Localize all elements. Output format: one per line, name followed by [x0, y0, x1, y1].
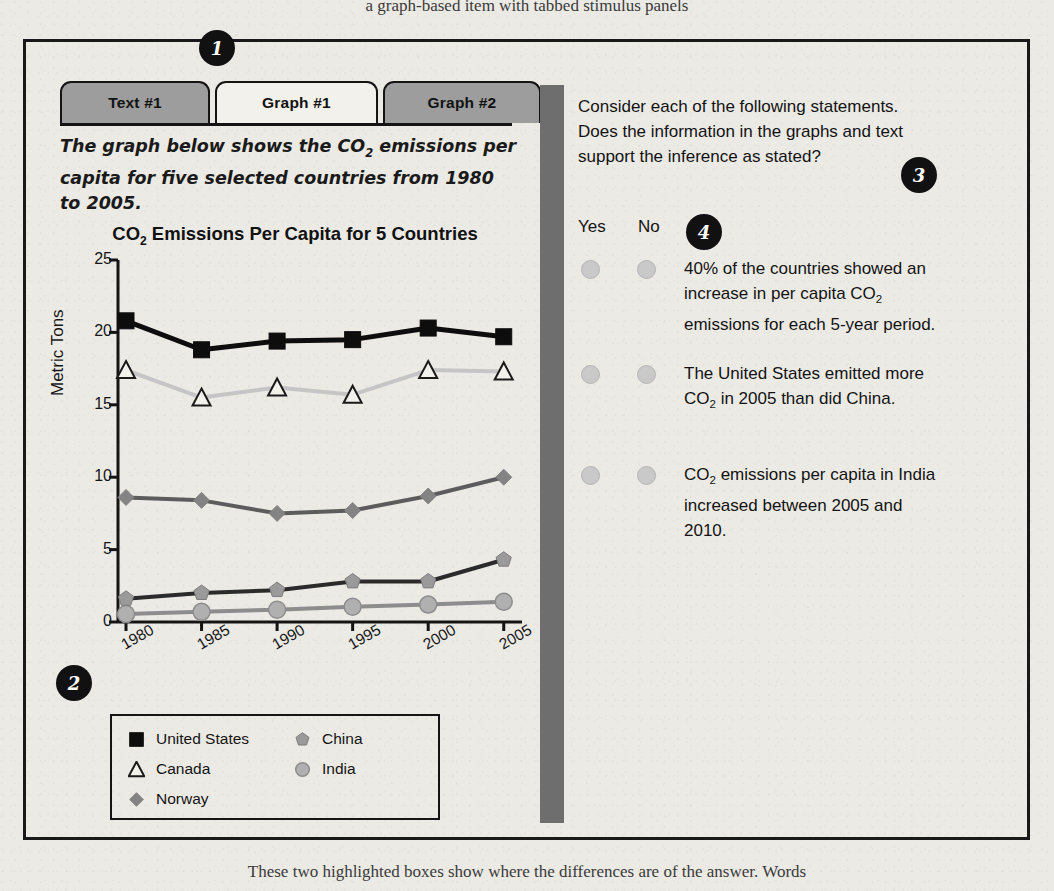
prompt-line2: capita for five selected countries from …: [60, 168, 494, 213]
statement-3-line2: increased between 2005 and: [684, 496, 902, 515]
filled-pentagon-icon: [294, 731, 311, 748]
radio-no-statement-3[interactable]: [637, 466, 656, 485]
series-india: [118, 593, 513, 622]
column-header-no: No: [638, 217, 660, 237]
y-tick-10: 10: [78, 467, 112, 485]
statement-3-text: CO2 emissions per capita in India increa…: [684, 462, 1004, 543]
tab-graph-1[interactable]: Graph #1: [215, 81, 378, 123]
y-tick-0: 0: [78, 612, 112, 630]
y-tick-5: 5: [78, 540, 112, 558]
legend-item-canada: Canada: [128, 760, 210, 778]
filled-diamond-icon: [128, 791, 145, 808]
stimulus-panel: Text #1 Graph #1 Graph #2 The graph belo…: [26, 42, 540, 837]
callout-2: 2: [56, 665, 92, 701]
y-axis-label: Metric Tons: [48, 309, 68, 396]
statement-2-line2-b: in 2005 than did China.: [716, 389, 896, 408]
legend-label: Norway: [156, 790, 209, 808]
legend-label: India: [322, 760, 356, 778]
prompt-line1-b: emissions per: [373, 136, 516, 156]
statement-3-line1-b: emissions per capita in India: [716, 465, 935, 484]
radio-no-statement-1[interactable]: [637, 260, 656, 279]
y-axis-ticks: 0510152025: [78, 248, 112, 628]
question-line3: support the inference as stated?: [578, 147, 821, 166]
legend-item-china: China: [294, 730, 363, 748]
statement-1-line2: increase in per capita CO: [684, 284, 876, 303]
statement-3-line1-a: CO: [684, 465, 710, 484]
legend-item-united-states: United States: [128, 730, 249, 748]
question-stem: Consider each of the following statement…: [578, 94, 998, 169]
figure-frame: Text #1 Graph #1 Graph #2 The graph belo…: [23, 39, 1030, 840]
legend-label: United States: [156, 730, 249, 748]
series-united-states: [118, 313, 512, 358]
radio-yes-statement-2[interactable]: [581, 365, 600, 384]
prompt-subscript: 2: [365, 146, 373, 160]
tab-underline: [60, 123, 512, 126]
filled-square-icon: [128, 731, 145, 748]
series-norway: [118, 469, 512, 521]
radio-yes-statement-3[interactable]: [581, 466, 600, 485]
statement-3-line3: 2010.: [684, 521, 727, 540]
y-tick-25: 25: [78, 250, 112, 268]
prompt-line1-a: The graph below shows the CO: [60, 136, 365, 156]
page-bottom-cropped-text: These two highlighted boxes show where t…: [0, 862, 1054, 888]
statement-1-text: 40% of the countries showed an increase …: [684, 256, 1004, 337]
statement-1-line3: emissions for each 5-year period.: [684, 315, 935, 334]
panel-divider: [540, 85, 564, 823]
question-line1: Consider each of the following statement…: [578, 97, 898, 116]
filled-circle-icon: [294, 761, 311, 778]
callout-3: 3: [901, 157, 937, 193]
chart-title: CO2 Emissions Per Capita for 5 Countries: [60, 223, 530, 248]
chart-plot-area: Metric Tons 0510152025 19801985199019952…: [60, 248, 530, 648]
legend-item-india: India: [294, 760, 356, 778]
statement-1-subscript: 2: [876, 293, 882, 305]
chart-title-b: Emissions Per Capita for 5 Countries: [147, 223, 478, 244]
tab-text-1[interactable]: Text #1: [60, 81, 210, 123]
chart-title-subscript: 2: [140, 234, 147, 248]
y-tick-20: 20: [78, 322, 112, 340]
tab-graph-2[interactable]: Graph #2: [383, 81, 541, 123]
legend-label: China: [322, 730, 363, 748]
y-tick-15: 15: [78, 395, 112, 413]
question-line2: Does the information in the graphs and t…: [578, 122, 903, 141]
chart-legend: United StatesCanadaNorwayChinaIndia: [110, 714, 440, 820]
stimulus-prompt: The graph below shows the CO2 emissions …: [60, 134, 520, 216]
series-canada: [117, 361, 513, 406]
series-china: [118, 552, 511, 606]
chart-title-a: CO: [112, 223, 140, 244]
legend-label: Canada: [156, 760, 210, 778]
radio-no-statement-2[interactable]: [637, 365, 656, 384]
callout-4: 4: [686, 214, 722, 250]
page-top-cropped-text: a graph-based item with tabbed stimulus …: [0, 0, 1054, 18]
open-triangle-icon: [128, 761, 145, 778]
radio-yes-statement-1[interactable]: [581, 260, 600, 279]
column-header-yes: Yes: [578, 217, 606, 237]
legend-item-norway: Norway: [128, 790, 209, 808]
statement-2-line1: The United States emitted more: [684, 364, 924, 383]
statement-1-line1: 40% of the countries showed an: [684, 259, 926, 278]
statement-2-line2-a: CO: [684, 389, 710, 408]
line-chart-svg: [60, 248, 530, 648]
statement-2-text: The United States emitted more CO2 in 20…: [684, 361, 1004, 417]
callout-1: 1: [199, 30, 235, 66]
